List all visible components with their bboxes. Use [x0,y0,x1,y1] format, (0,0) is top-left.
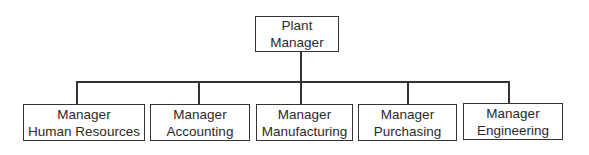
node-manager-manufacturing: Manager Manufacturing [256,104,353,141]
node-label-line1: Manager [173,106,226,123]
node-label-line1: Plant [282,17,313,34]
node-label-line1: Manager [278,106,331,123]
node-label-line2: Engineering [477,122,549,139]
node-manager-engineering: Manager Engineering [463,103,563,140]
node-label-line2: Human Resources [28,123,140,140]
node-label-line2: Manager [270,34,323,51]
node-plant-manager: Plant Manager [255,16,339,52]
child-connector-manufacturing [300,81,302,104]
node-label-line1: Manager [486,105,539,122]
child-connector-purchasing [407,81,409,104]
child-connector-accounting [198,81,200,104]
node-manager-accounting: Manager Accounting [150,104,250,141]
node-label-line2: Accounting [167,123,234,140]
child-connector-engineering [508,81,510,104]
node-label-line1: Manager [381,106,434,123]
root-connector [300,51,302,82]
node-manager-human-resources: Manager Human Resources [23,104,145,141]
child-connector-hr [76,81,78,104]
node-label-line2: Manufacturing [262,123,348,140]
horizontal-connector [76,81,509,83]
node-label-line1: Manager [57,106,110,123]
node-manager-purchasing: Manager Purchasing [358,104,457,141]
node-label-line2: Purchasing [374,123,442,140]
